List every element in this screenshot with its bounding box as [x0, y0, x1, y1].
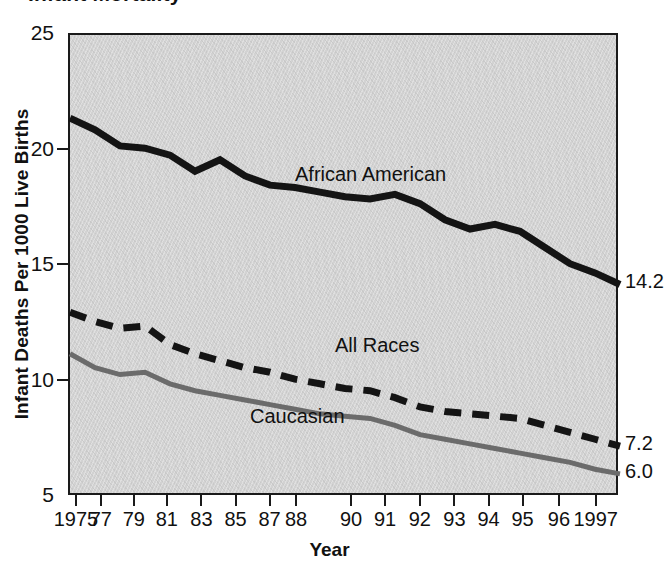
- series-label-caucasian: Caucasian: [250, 405, 345, 428]
- x-tick-label: 83: [190, 508, 212, 531]
- end-value-all-races: 7.2: [625, 432, 653, 455]
- x-tick-label: 77: [90, 508, 112, 531]
- series-label-african-american: African American: [295, 163, 446, 186]
- y-tick-label: 10: [8, 368, 54, 392]
- x-tick-label: 81: [156, 508, 178, 531]
- series-line-caucasian: [70, 354, 620, 474]
- y-tick-label: 25: [8, 21, 54, 45]
- x-tick-label: 95: [511, 508, 533, 531]
- x-tick-label: 1997: [574, 508, 619, 531]
- y-tick-mark: [57, 148, 68, 150]
- plot-area: African AmericanAll RacesCaucasian: [68, 33, 618, 495]
- y-tick-mark: [57, 263, 68, 265]
- y-tick-mark: [57, 379, 68, 381]
- x-tick-label: 88: [285, 508, 307, 531]
- x-axis-title: Year: [0, 539, 659, 561]
- x-tick-label: 87: [258, 508, 280, 531]
- x-tick-label: 91: [374, 508, 396, 531]
- x-tick-label: 93: [443, 508, 465, 531]
- x-tick-label: 96: [548, 508, 570, 531]
- end-value-caucasian: 6.0: [625, 460, 653, 483]
- series-label-all-races: All Races: [335, 334, 419, 357]
- y-tick-label: 15: [8, 252, 54, 276]
- x-tick-label: 92: [409, 508, 431, 531]
- x-tick-label: 94: [477, 508, 499, 531]
- series-line-all-races: [70, 312, 620, 446]
- x-tick-label: 85: [224, 508, 246, 531]
- series-lines: [70, 35, 620, 497]
- end-value-african-american: 14.2: [625, 270, 664, 293]
- series-line-african-american: [70, 118, 620, 284]
- y-tick-label: 20: [8, 137, 54, 161]
- x-tick-label: 90: [340, 508, 362, 531]
- x-tick-label: 79: [123, 508, 145, 531]
- y-tick-label: 5: [8, 483, 54, 507]
